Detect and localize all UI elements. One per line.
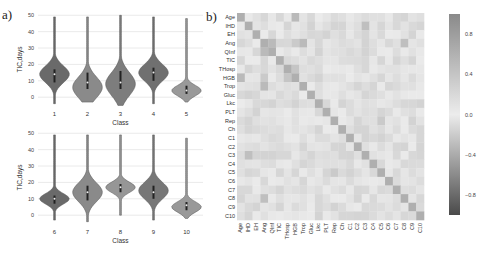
- heatmap-cell: [268, 186, 276, 195]
- heatmap-cell: [292, 48, 300, 57]
- heatmap-cell: [253, 91, 261, 100]
- heatmap-cell: [323, 56, 331, 65]
- heatmap-cell: [260, 168, 268, 177]
- heatmap-cell: [276, 186, 284, 195]
- colorbar-tick-label: 0.8: [465, 31, 473, 37]
- x-tick-label: 2: [86, 111, 90, 117]
- heatmap-cell: [331, 99, 339, 108]
- heatmap-cell: [284, 168, 292, 177]
- heatmap-cell: [331, 73, 339, 82]
- heatmap-cell: [377, 99, 385, 108]
- heatmap-cell: [260, 134, 268, 143]
- heatmap-cell: [393, 13, 401, 22]
- heatmap-cell: [346, 48, 354, 57]
- heatmap-cell: [268, 48, 276, 57]
- heatmap-cell: [354, 142, 362, 151]
- heatmap-cell: [292, 194, 300, 203]
- heatmap-cell: [253, 65, 261, 74]
- heatmap-cell: [276, 22, 284, 31]
- heatmap-cell: [377, 142, 385, 151]
- heatmap-cell: [299, 125, 307, 134]
- heatmap-cell: [315, 186, 323, 195]
- heatmap-cell: [245, 56, 253, 65]
- col-label: Gluc: [308, 223, 314, 235]
- heatmap-cell: [354, 56, 362, 65]
- heatmap-cell: [331, 30, 339, 39]
- heatmap-cell: [369, 134, 377, 143]
- heatmap-cell: [253, 203, 261, 212]
- heatmap-cell: [346, 91, 354, 100]
- heatmap-cell: [268, 91, 276, 100]
- heatmap-cell: [401, 117, 409, 126]
- heatmap-cell: [385, 91, 393, 100]
- heatmap-cell: [237, 91, 245, 100]
- col-label: Age: [237, 223, 243, 233]
- heatmap-cell: [245, 73, 253, 82]
- heatmap-cell: [253, 211, 261, 220]
- heatmap-cell: [253, 134, 261, 143]
- y-tick-label: 30: [28, 163, 34, 169]
- heatmap-cell: [245, 13, 253, 22]
- heatmap-cell: [385, 48, 393, 57]
- row-label: C5: [228, 169, 235, 175]
- heatmap-cell: [416, 134, 424, 143]
- heatmap-cell: [362, 177, 370, 186]
- heatmap-cell: [260, 65, 268, 74]
- y-tick-label: 20: [28, 61, 34, 67]
- heatmap-cell: [307, 73, 315, 82]
- heatmap-cell: [284, 117, 292, 126]
- heatmap-cell: [245, 91, 253, 100]
- heatmap-cell: [237, 48, 245, 57]
- colorbar-tick-label: −0.8: [465, 192, 476, 198]
- heatmap-cell: [416, 39, 424, 48]
- heatmap-cell: [260, 203, 268, 212]
- heatmap-cell: [323, 22, 331, 31]
- row-label: EH: [227, 31, 235, 37]
- heatmap-cell: [299, 151, 307, 160]
- col-label: Ch: [339, 223, 345, 230]
- heatmap-cell: [245, 142, 253, 151]
- heatmap-cell: [369, 99, 377, 108]
- heatmap-cell: [362, 82, 370, 91]
- x-axis-title: Class: [112, 237, 129, 244]
- row-label: C3: [228, 152, 235, 158]
- heatmap-cell: [284, 142, 292, 151]
- heatmap-cell: [338, 91, 346, 100]
- heatmap-cell: [276, 13, 284, 22]
- heatmap-cell: [369, 211, 377, 220]
- heatmap-cell: [323, 108, 331, 117]
- heatmap-cell: [338, 39, 346, 48]
- heatmap-cell: [377, 73, 385, 82]
- heatmap-cell: [323, 91, 331, 100]
- heatmap-cell: [237, 177, 245, 186]
- heatmap-cell: [323, 134, 331, 143]
- heatmap-cell: [315, 56, 323, 65]
- heatmap-cell: [292, 151, 300, 160]
- heatmap-cell: [377, 186, 385, 195]
- heatmap-cell: [260, 56, 268, 65]
- heatmap-cell: [253, 117, 261, 126]
- heatmap-cell: [237, 168, 245, 177]
- heatmap-cell: [338, 99, 346, 108]
- heatmap-cell: [323, 194, 331, 203]
- heatmap-cell: [284, 56, 292, 65]
- heatmap-cell: [276, 151, 284, 160]
- heatmap-cell: [260, 82, 268, 91]
- heatmap-cell: [362, 151, 370, 160]
- heatmap-cell: [377, 30, 385, 39]
- heatmap-cell: [354, 48, 362, 57]
- heatmap-cell: [253, 194, 261, 203]
- heatmap-cell: [362, 211, 370, 220]
- heatmap-cell: [393, 151, 401, 160]
- heatmap-cell: [268, 13, 276, 22]
- heatmap-cell: [315, 99, 323, 108]
- heatmap-cell: [401, 134, 409, 143]
- heatmap-cell: [315, 211, 323, 220]
- heatmap-cell: [307, 91, 315, 100]
- row-label: Age: [225, 14, 235, 20]
- heatmap-cell: [331, 56, 339, 65]
- heatmap-cell: [253, 125, 261, 134]
- heatmap-cell: [346, 134, 354, 143]
- heatmap-cell: [385, 151, 393, 160]
- y-tick-label: 40: [28, 147, 34, 153]
